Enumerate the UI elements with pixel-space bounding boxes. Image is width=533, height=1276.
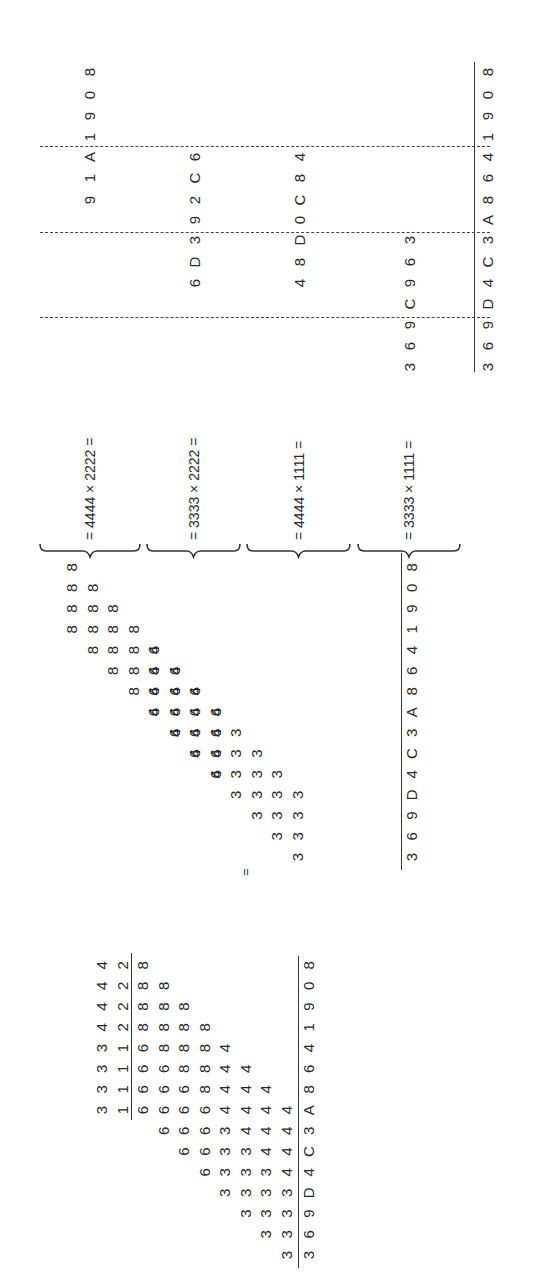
- final-result-digit: 8: [480, 65, 495, 79]
- partial-product-digit: 9: [402, 276, 417, 290]
- partial-row-digit: 4: [217, 1103, 232, 1117]
- partial-digit-4: 4: [208, 726, 223, 740]
- partial-row-digit: 6: [176, 1082, 191, 1096]
- partial-product-digit: C: [187, 171, 202, 185]
- partial-row-digit: 6: [156, 1082, 171, 1096]
- partial-row-digit: 4: [238, 1103, 253, 1117]
- partial-digit-4: 4: [187, 684, 202, 698]
- partial-product-digit: 1: [82, 171, 97, 185]
- partial-product-digit: 6: [187, 150, 202, 164]
- partial-product-digit: 6: [187, 276, 202, 290]
- result-digit: D: [404, 788, 419, 802]
- partial-row-digit: 8: [135, 979, 150, 993]
- partial-digit-8: 8: [105, 664, 120, 678]
- partial-digit-3: 3: [290, 809, 305, 823]
- final-result-digit: 4: [480, 276, 495, 290]
- partial-digit-3: 3: [228, 747, 243, 761]
- partial-digit-4: 4: [187, 747, 202, 761]
- partial-digit-3: 3: [228, 726, 243, 740]
- partial-row-digit: 4: [217, 1041, 232, 1055]
- multiplier-digit: 2: [115, 979, 130, 993]
- partial-digit-3: 3: [249, 809, 264, 823]
- result-digit: 9: [404, 602, 419, 616]
- column-group-divider: [40, 317, 490, 318]
- partial-product-digit: 3: [402, 360, 417, 374]
- partial-row-digit: 4: [258, 1082, 273, 1096]
- partial-row-digit: 6: [135, 1041, 150, 1055]
- result-digit: C: [404, 747, 419, 761]
- partial-digit-4: 4: [146, 684, 161, 698]
- result-digit: 4: [301, 1041, 316, 1055]
- partial-row-digit: 6: [135, 1062, 150, 1076]
- partial-product-digit: C: [292, 193, 307, 207]
- partial-row-digit: 8: [197, 1020, 212, 1034]
- partial-row-digit: 4: [238, 1062, 253, 1076]
- partial-row-digit: 3: [238, 1207, 253, 1221]
- partial-product-digit: A: [82, 150, 97, 164]
- brace-label: = 3333 × 2222 =: [186, 438, 202, 540]
- partial-digit-3: 3: [249, 788, 264, 802]
- brace-label: = 4444 × 1111 =: [291, 441, 307, 540]
- result-digit: 3: [301, 1124, 316, 1138]
- partial-row-digit: 8: [176, 1062, 191, 1076]
- partial-digit-4: 4: [167, 726, 182, 740]
- partial-row-digit: 6: [176, 1103, 191, 1117]
- partial-row-digit: 3: [238, 1186, 253, 1200]
- partial-digit-3: 3: [290, 850, 305, 864]
- partial-row-digit: 3: [217, 1186, 232, 1200]
- partial-row-digit: 4: [279, 1124, 294, 1138]
- partial-digit-4: 4: [167, 705, 182, 719]
- result-digit: 6: [404, 664, 419, 678]
- partial-row-digit: 8: [197, 1041, 212, 1055]
- result-digit: 3: [404, 850, 419, 864]
- sum-line: [474, 62, 475, 372]
- partial-digit-8: 8: [126, 684, 141, 698]
- partial-product-digit: 4: [292, 276, 307, 290]
- result-digit: 6: [301, 1062, 316, 1076]
- final-result-digit: 4: [480, 150, 495, 164]
- partial-digit-8: 8: [64, 560, 79, 574]
- partial-digit-8: 8: [105, 643, 120, 657]
- result-digit: 0: [404, 581, 419, 595]
- partial-row-digit: 8: [197, 1062, 212, 1076]
- multiplicand-digit: 4: [94, 1020, 109, 1034]
- result-digit: 9: [404, 809, 419, 823]
- result-digit: 9: [301, 1207, 316, 1221]
- result-digit: A: [404, 705, 419, 719]
- partial-digit-4: 4: [146, 643, 161, 657]
- partial-digit-8: 8: [64, 581, 79, 595]
- partial-digit-3: 3: [249, 747, 264, 761]
- partial-row-digit: 3: [258, 1207, 273, 1221]
- partial-product-digit: 9: [187, 213, 202, 227]
- partial-digit-3: 3: [228, 767, 243, 781]
- result-digit: 3: [301, 1248, 316, 1262]
- multiplier-digit: 1: [115, 1103, 130, 1117]
- multiplier-digit: 2: [115, 1000, 130, 1014]
- final-result-digit: 9: [480, 109, 495, 123]
- partial-digit-8: 8: [64, 602, 79, 616]
- equals-sign: =: [238, 868, 253, 876]
- final-result-digit: C: [480, 255, 495, 269]
- multiplier-digit: 2: [115, 1020, 130, 1034]
- final-result-digit: 3: [480, 360, 495, 374]
- partial-row-digit: 6: [156, 1124, 171, 1138]
- partial-digit-3: 3: [290, 788, 305, 802]
- brace-label: = 3333 × 1111 =: [401, 441, 417, 540]
- partial-row-digit: 4: [217, 1062, 232, 1076]
- partial-row-digit: 8: [135, 1000, 150, 1014]
- partial-product-digit: C: [402, 297, 417, 311]
- result-digit: 1: [404, 622, 419, 636]
- partial-row-digit: 8: [156, 1041, 171, 1055]
- multiplier-digit: 2: [115, 958, 130, 972]
- result-digit: 4: [301, 1165, 316, 1179]
- result-digit: 4: [404, 643, 419, 657]
- partial-row-digit: 4: [217, 1082, 232, 1096]
- final-result-digit: A: [480, 213, 495, 227]
- multiplicand-digit: 3: [94, 1062, 109, 1076]
- column-group-divider: [40, 146, 490, 147]
- partial-digit-4: 4: [208, 705, 223, 719]
- result-digit: 6: [404, 829, 419, 843]
- partial-row-digit: 6: [197, 1145, 212, 1159]
- partial-row-digit: 3: [258, 1227, 273, 1241]
- result-digit: 4: [404, 767, 419, 781]
